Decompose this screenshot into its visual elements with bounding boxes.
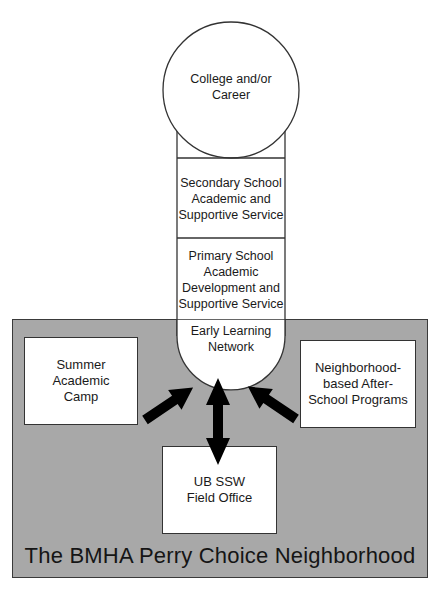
- neighborhood-title: The BMHA Perry Choice Neighborhood: [12, 538, 428, 574]
- arrow-summer-to-early-learning: [138, 378, 200, 430]
- arrow-double-field-office: [206, 378, 230, 465]
- arrow-afterschool-to-early-learning: [241, 377, 303, 429]
- arrows-layer: [0, 0, 440, 591]
